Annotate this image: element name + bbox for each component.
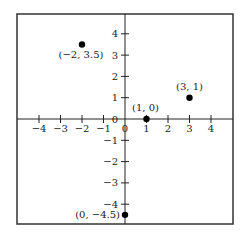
data-point-label: (−2, 3.5) — [59, 49, 104, 60]
y-tick-label: 3 — [112, 50, 118, 61]
y-tick-label: −3 — [103, 177, 118, 188]
x-tick-label: 2 — [165, 123, 171, 134]
data-point — [79, 41, 85, 47]
data-point-label: (3, 1) — [176, 81, 203, 92]
y-tick-label: −1 — [103, 135, 118, 146]
y-tick-label: 4 — [112, 28, 118, 39]
data-point — [186, 95, 192, 101]
x-axis-ticks: −4−3−2−101234 — [32, 115, 215, 134]
coordinate-plane: −4−3−2−101234 −4−3−2−101234 (−2, 3.5)(3,… — [0, 0, 245, 238]
data-point-label: (0, −4.5) — [75, 209, 120, 220]
x-tick-label: 3 — [186, 123, 192, 134]
y-tick-label: 1 — [112, 92, 118, 103]
y-tick-label: 0 — [112, 114, 118, 125]
x-tick-label: 0 — [122, 123, 128, 134]
y-tick-label: −4 — [103, 199, 118, 210]
y-tick-label: −2 — [103, 156, 118, 167]
x-tick-label: −4 — [32, 123, 47, 134]
y-tick-label: 2 — [112, 71, 118, 82]
x-tick-label: −1 — [96, 123, 111, 134]
x-tick-label: −2 — [75, 123, 90, 134]
x-tick-label: 4 — [208, 123, 214, 134]
x-tick-label: −3 — [53, 123, 68, 134]
data-point — [122, 212, 128, 218]
data-point — [143, 116, 149, 122]
x-tick-label: 1 — [143, 123, 149, 134]
data-point-label: (1, 0) — [132, 102, 159, 113]
